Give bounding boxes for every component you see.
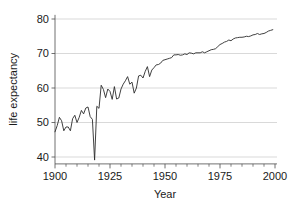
y-tick-label-40: 40 <box>37 151 49 163</box>
y-tick-label-80: 80 <box>37 13 49 25</box>
chart-canvas: 4050607080 19001925195019752000 Year lif… <box>0 0 302 210</box>
y-axis-title: life expectancy <box>7 53 19 126</box>
life-expectancy-chart: 4050607080 19001925195019752000 Year lif… <box>0 0 302 210</box>
y-tick-label-60: 60 <box>37 82 49 94</box>
x-tick-label-2000: 2000 <box>263 170 287 182</box>
x-axis-title: Year <box>154 188 177 200</box>
y-tick-label-50: 50 <box>37 116 49 128</box>
x-tick-label-1900: 1900 <box>43 170 67 182</box>
x-tick-label-1950: 1950 <box>153 170 177 182</box>
x-tick-label-1925: 1925 <box>98 170 122 182</box>
y-tick-label-70: 70 <box>37 47 49 59</box>
x-tick-label-1975: 1975 <box>208 170 232 182</box>
